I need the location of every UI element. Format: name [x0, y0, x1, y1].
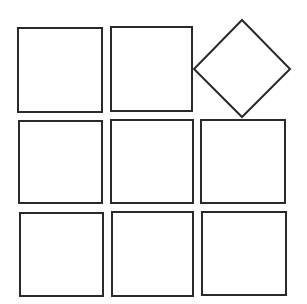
square-r3-c1 — [19, 212, 104, 297]
grid-diagram — [0, 0, 307, 304]
square-r2-c3 — [200, 119, 286, 204]
square-r3-c3 — [201, 211, 287, 296]
square-r3-c2 — [111, 211, 194, 297]
square-r2-c2 — [110, 119, 194, 204]
square-r2-c1 — [18, 120, 103, 204]
